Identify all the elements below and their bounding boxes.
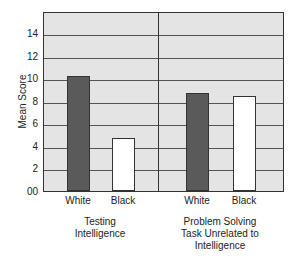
y-tick: 4 [18, 141, 38, 152]
y-tick: 8 [18, 96, 38, 107]
x-tick: White [58, 195, 98, 206]
group-label-line: Intelligence [60, 228, 140, 240]
y-tick: 00 [18, 186, 38, 197]
plot-area [43, 12, 284, 192]
bar-testing-black [112, 138, 135, 191]
gridline-14 [44, 35, 283, 36]
y-tick: 14 [18, 28, 38, 39]
group-label-line: Testing [60, 216, 140, 228]
group-divider [158, 13, 159, 191]
group-label-line: Problem Solving [170, 216, 270, 228]
bar-problem-white [186, 93, 209, 191]
bar-testing-white [67, 76, 90, 191]
y-tick: 6 [18, 118, 38, 129]
group-label-line: Task Unrelated to [170, 228, 270, 240]
group-label-testing: Testing Intelligence [60, 216, 140, 240]
bar-problem-black [233, 96, 256, 191]
x-tick: Black [224, 195, 264, 206]
group-label-line: Intelligence [170, 240, 270, 252]
y-tick: 12 [18, 51, 38, 62]
y-tick: 10 [18, 73, 38, 84]
y-tick: 2 [18, 163, 38, 174]
gridline-12 [44, 58, 283, 59]
x-tick: Black [103, 195, 143, 206]
group-label-problem-solving: Problem Solving Task Unrelated to Intell… [170, 216, 270, 252]
x-tick: White [177, 195, 217, 206]
